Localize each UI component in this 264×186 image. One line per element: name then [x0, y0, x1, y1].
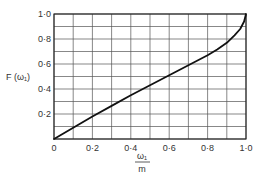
y-tick-label: 0·2 [38, 109, 51, 119]
x-tick-label: 0 [51, 143, 56, 153]
x-tick-label: 0·8 [201, 143, 214, 153]
x-tick-label: 0·6 [163, 143, 176, 153]
x-axis-label-numerator: ω₁ [137, 151, 147, 161]
y-tick-label: 1·0 [38, 9, 51, 19]
x-tick-label: 0·4 [124, 143, 137, 153]
grid-lines [54, 14, 246, 139]
x-axis-label-denominator: m [138, 164, 146, 174]
y-axis-tick-labels: 0·20·40·60·81·0 [38, 9, 51, 119]
x-axis-tick-labels: 00·20·40·60·81·0 [51, 143, 252, 153]
y-tick-label: 0·8 [38, 34, 51, 44]
x-tick-label: 1·0 [239, 143, 252, 153]
chart: 00·20·40·60·81·0 0·20·40·60·81·0 F (ω₁) … [0, 0, 264, 186]
y-axis-label: F (ω₁) [6, 72, 30, 82]
x-tick-label: 0·2 [86, 143, 99, 153]
y-tick-label: 0·6 [38, 59, 51, 69]
y-tick-label: 0·4 [38, 84, 51, 94]
x-axis-label: ω₁ m [135, 151, 150, 174]
